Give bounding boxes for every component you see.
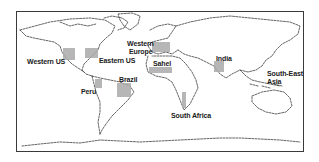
label-south-east-asia-line1: South-East [267, 70, 303, 78]
label-western-europe-line2: Europe [129, 48, 153, 56]
label-eastern-us: Eastern US [99, 57, 135, 65]
label-peru: Peru [81, 88, 96, 96]
label-brazil: Brazil [119, 76, 137, 84]
south-africa-region [182, 92, 186, 108]
eastern-us-region [85, 48, 98, 58]
label-sahel: Sahel [153, 60, 171, 68]
brazil-region [117, 83, 131, 97]
label-south-africa: South Africa [171, 112, 211, 120]
label-western-us: Western US [27, 58, 65, 66]
label-india: India [216, 55, 232, 63]
western-europe-region [152, 42, 170, 52]
label-western-europe-line1: Western [127, 40, 154, 48]
label-south-east-asia-line2: Asia [267, 78, 281, 86]
peru-region [95, 79, 102, 88]
